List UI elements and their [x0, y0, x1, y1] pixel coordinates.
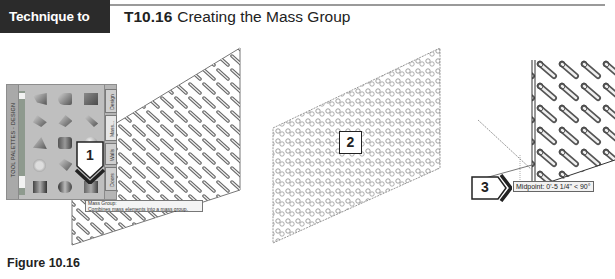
- tool-isosceles[interactable]: [27, 154, 53, 176]
- gable-shape-icon: [33, 115, 47, 127]
- header-rule: [110, 4, 605, 6]
- tab-massing[interactable]: Mass...: [105, 115, 117, 141]
- tool-pyramid[interactable]: [27, 132, 53, 154]
- box-shape-icon: [84, 93, 98, 105]
- callout-number-1: 1: [74, 147, 106, 163]
- callout-number-2: 2: [347, 134, 355, 150]
- midpoint-snap-tooltip: Midpoint: 0'-5 1/4" < 90°: [513, 181, 594, 192]
- extrusion-shape-icon: [84, 115, 98, 127]
- tool-gable[interactable]: [27, 110, 53, 132]
- callout-1: 1: [74, 140, 106, 184]
- scroll-thumb-lower: [19, 176, 25, 188]
- callout-2: 2: [339, 131, 362, 154]
- dome-shape-icon: [58, 115, 72, 127]
- cone-shape-icon: [58, 159, 72, 171]
- callout-number-3: 3: [472, 179, 498, 195]
- technique-tag: Technique to Master: [0, 0, 110, 33]
- figure-caption: Figure 10.16: [7, 256, 80, 270]
- tool-extrusion[interactable]: [78, 110, 104, 132]
- tool-free-form[interactable]: [27, 176, 53, 198]
- tool-barrel-vault[interactable]: [53, 88, 79, 110]
- tab-doors[interactable]: Doors: [105, 167, 117, 191]
- palette-title: TOOL PALETTES - DESIGN: [10, 92, 16, 188]
- pyramid-shape-icon: [33, 137, 47, 149]
- isosceles-triangle-shape-icon: [33, 159, 46, 172]
- barrel-vault-shape-icon: [58, 93, 72, 105]
- tool-arch[interactable]: [27, 88, 53, 110]
- tooltip-description: Combines mass elements into a mass group…: [88, 207, 200, 213]
- tab-walls[interactable]: Walls: [105, 143, 117, 165]
- tab-design[interactable]: Design: [105, 89, 117, 113]
- technique-number: T10.16: [124, 8, 172, 25]
- doric-shape-icon: [58, 181, 72, 193]
- tool-dome[interactable]: [53, 110, 79, 132]
- mass-group-tooltip: Mass Group: Combines mass elements into …: [85, 200, 203, 212]
- palette-scrollbar[interactable]: [19, 91, 25, 195]
- scroll-thumb[interactable]: [19, 93, 25, 99]
- technique-heading: T10.16Creating the Mass Group: [124, 7, 350, 27]
- tool-box[interactable]: [78, 88, 104, 110]
- technique-title: Creating the Mass Group: [177, 8, 350, 25]
- palette-titlebar[interactable]: TOOL PALETTES - DESIGN: [7, 85, 19, 199]
- cylinder-shape-icon: [58, 137, 72, 149]
- free-form-shape-icon: [33, 181, 47, 193]
- arch-shape-icon: [33, 93, 47, 105]
- callout-3: 3: [470, 174, 512, 202]
